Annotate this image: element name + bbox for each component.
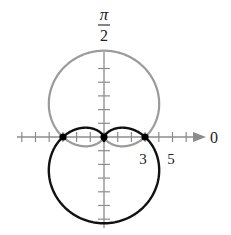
pi-label: π — [100, 5, 109, 24]
tick-label-3: 3 — [139, 151, 147, 167]
zero-angle-label: 0 — [210, 129, 218, 146]
intersection-point-pole — [100, 133, 107, 140]
two-label: 2 — [100, 27, 108, 44]
intersection-point-left — [59, 133, 66, 140]
intersection-point-right — [141, 133, 148, 140]
tick-label-5: 5 — [167, 151, 175, 167]
polar-graph: π 2 0 3 5 — [0, 0, 231, 235]
polar-axis-arrow-icon — [193, 132, 206, 142]
